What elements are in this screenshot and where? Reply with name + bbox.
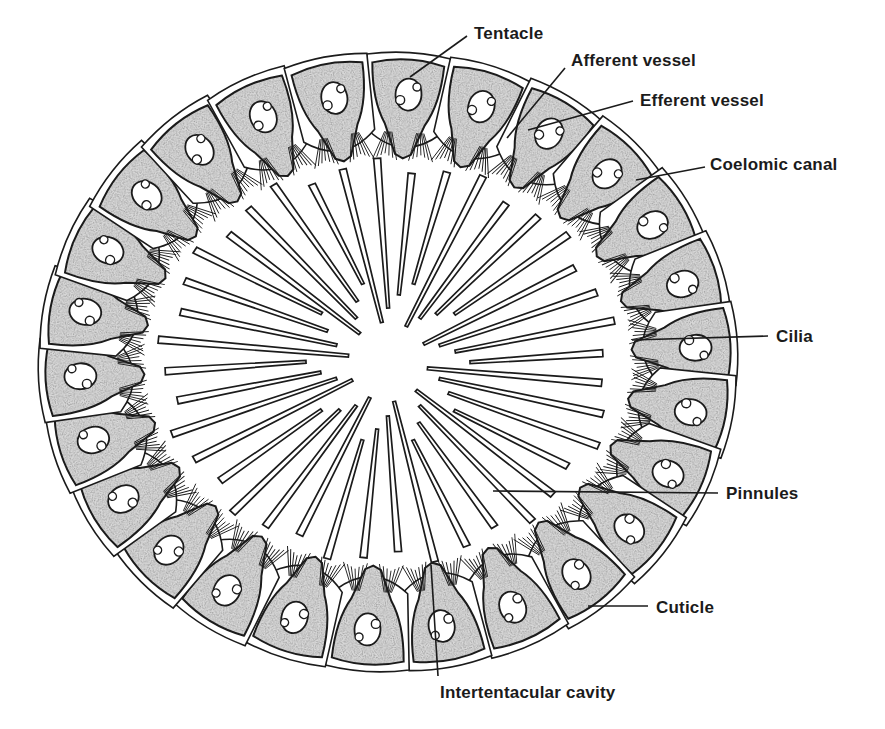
pinnule [470, 350, 603, 364]
label-coelomic-canal: Coelomic canal [710, 156, 838, 173]
pinnule [397, 173, 415, 295]
label-pinnules: Pinnules [726, 485, 798, 502]
tentacle-cell [361, 50, 451, 163]
tentacle-cell [325, 561, 415, 674]
pinnule [374, 158, 390, 308]
pinnule [455, 317, 615, 353]
pinnule [360, 429, 379, 558]
pinnule [177, 371, 321, 404]
label-intertentacular-cavity: Intertentacular cavity [440, 684, 615, 701]
pinnules [158, 158, 615, 562]
label-cilia: Cilia [776, 328, 813, 345]
pinnule [324, 440, 364, 560]
tentacle-cells [36, 49, 740, 674]
label-efferent-vessel: Efferent vessel [640, 92, 764, 109]
label-tentacle: Tentacle [474, 25, 543, 42]
pinnule [386, 416, 401, 552]
pinnule [165, 360, 306, 374]
pinnule [412, 171, 450, 284]
label-afferent-vessel: Afferent vessel [571, 52, 696, 69]
label-cuticle: Cuticle [656, 599, 714, 616]
